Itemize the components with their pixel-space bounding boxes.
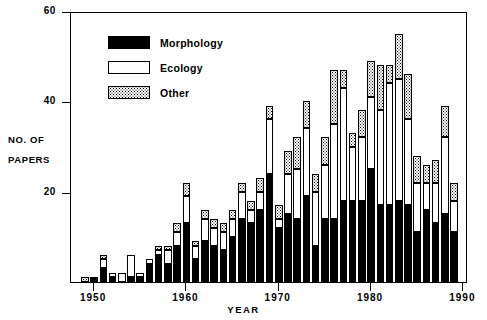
bar-1972	[293, 137, 301, 282]
bar-segment-other	[386, 65, 394, 83]
bar-1955	[136, 273, 144, 282]
bar-1989	[450, 183, 458, 282]
legend: MorphologyEcologyOther	[108, 30, 223, 105]
bar-segment-other	[377, 65, 385, 110]
bar-segment-ecology	[192, 246, 200, 260]
bar-segment-morphology	[109, 277, 117, 282]
bar-segment-morphology	[238, 219, 246, 282]
y-tick-label: 60	[14, 5, 56, 16]
bar-1961	[192, 241, 200, 282]
bar-1952	[109, 273, 117, 282]
bar-segment-other	[358, 110, 366, 137]
bar-segment-morphology	[136, 277, 144, 282]
bar-segment-other	[210, 219, 218, 228]
legend-swatch-ecology	[108, 61, 150, 74]
bar-segment-other	[81, 277, 89, 282]
bar-1962	[201, 210, 209, 282]
bar-1979	[358, 110, 366, 282]
bar-1954	[127, 255, 135, 282]
bar-segment-ecology	[256, 192, 264, 210]
bar-segment-other	[367, 61, 375, 97]
bar-segment-morphology	[173, 246, 181, 282]
bar-segment-ecology	[100, 259, 108, 268]
bar-segment-other	[275, 205, 283, 219]
bar-segment-other	[238, 183, 246, 192]
bar-segment-ecology	[118, 273, 126, 282]
legend-label: Other	[160, 87, 190, 99]
bar-segment-morphology	[312, 246, 320, 282]
bar-segment-other	[173, 223, 181, 232]
x-tick-mark	[462, 283, 463, 291]
x-tick-label: 1960	[162, 292, 208, 303]
bar-segment-other	[349, 133, 357, 147]
bar-segment-ecology	[303, 128, 311, 196]
bar-segment-morphology	[100, 268, 108, 282]
bar-segment-morphology	[256, 210, 264, 282]
bar-segment-ecology	[358, 137, 366, 200]
bar-segment-morphology	[90, 277, 98, 282]
legend-swatch-morphology	[108, 36, 150, 49]
bar-segment-morphology	[284, 214, 292, 282]
bar-segment-ecology	[275, 219, 283, 228]
bar-segment-ecology	[367, 97, 375, 169]
bar-segment-morphology	[266, 174, 274, 282]
bar-segment-ecology	[395, 79, 403, 201]
bar-segment-ecology	[127, 255, 135, 278]
bar-segment-morphology	[321, 219, 329, 282]
bar-segment-morphology	[146, 264, 154, 282]
chart-container: NO. OF PAPERS 204060 1950196019701980199…	[0, 0, 487, 320]
x-tick-label: 1980	[347, 292, 393, 303]
bar-1983	[395, 34, 403, 282]
bar-segment-morphology	[395, 201, 403, 282]
bar-segment-other	[303, 101, 311, 128]
bar-segment-ecology	[210, 228, 218, 246]
x-tick-label: 1950	[70, 292, 116, 303]
bar-segment-morphology	[432, 223, 440, 282]
bar-segment-other	[247, 201, 255, 210]
bar-1957	[155, 246, 163, 282]
bar-segment-ecology	[386, 83, 394, 205]
bar-1981	[377, 65, 385, 282]
bar-segment-ecology	[266, 119, 274, 173]
bar-segment-morphology	[201, 241, 209, 282]
bar-1959	[173, 223, 181, 282]
legend-label: Morphology	[160, 37, 223, 49]
bar-segment-morphology	[127, 277, 135, 282]
bar-segment-other	[100, 255, 108, 260]
bar-1969	[266, 106, 274, 282]
bar-segment-ecology	[146, 259, 154, 264]
bar-1974	[312, 174, 320, 282]
bar-segment-morphology	[220, 250, 228, 282]
legend-item-ecology: Ecology	[108, 55, 223, 80]
bar-segment-morphology	[450, 232, 458, 282]
bar-1967	[247, 201, 255, 282]
bar-segment-morphology	[330, 219, 338, 282]
bar-segment-ecology	[173, 232, 181, 246]
bar-segment-ecology	[432, 183, 440, 224]
bar-1964	[220, 223, 228, 282]
bar-segment-ecology	[238, 192, 246, 219]
bar-segment-ecology	[136, 273, 144, 278]
y-axis-title-line-1: NO. OF	[8, 130, 70, 150]
bar-segment-morphology	[293, 219, 301, 282]
bar-1977	[340, 70, 348, 282]
bar-segment-other	[441, 106, 449, 138]
legend-item-morphology: Morphology	[108, 30, 223, 55]
bar-segment-ecology	[330, 124, 338, 219]
bar-segment-ecology	[413, 183, 421, 233]
x-tick-label: 1970	[255, 292, 301, 303]
bar-1987	[432, 160, 440, 282]
y-tick-label: 40	[14, 95, 56, 106]
x-axis-title: YEAR	[0, 304, 487, 315]
bar-1978	[349, 133, 357, 282]
bar-segment-other	[413, 156, 421, 183]
bar-segment-other	[340, 70, 348, 88]
bar-segment-morphology	[229, 237, 237, 282]
bar-segment-other	[192, 241, 200, 246]
bar-1982	[386, 65, 394, 282]
bar-segment-morphology	[303, 196, 311, 282]
bar-segment-morphology	[404, 205, 412, 282]
bar-segment-morphology	[155, 255, 163, 282]
bar-segment-other	[284, 151, 292, 174]
bar-segment-ecology	[229, 219, 237, 237]
